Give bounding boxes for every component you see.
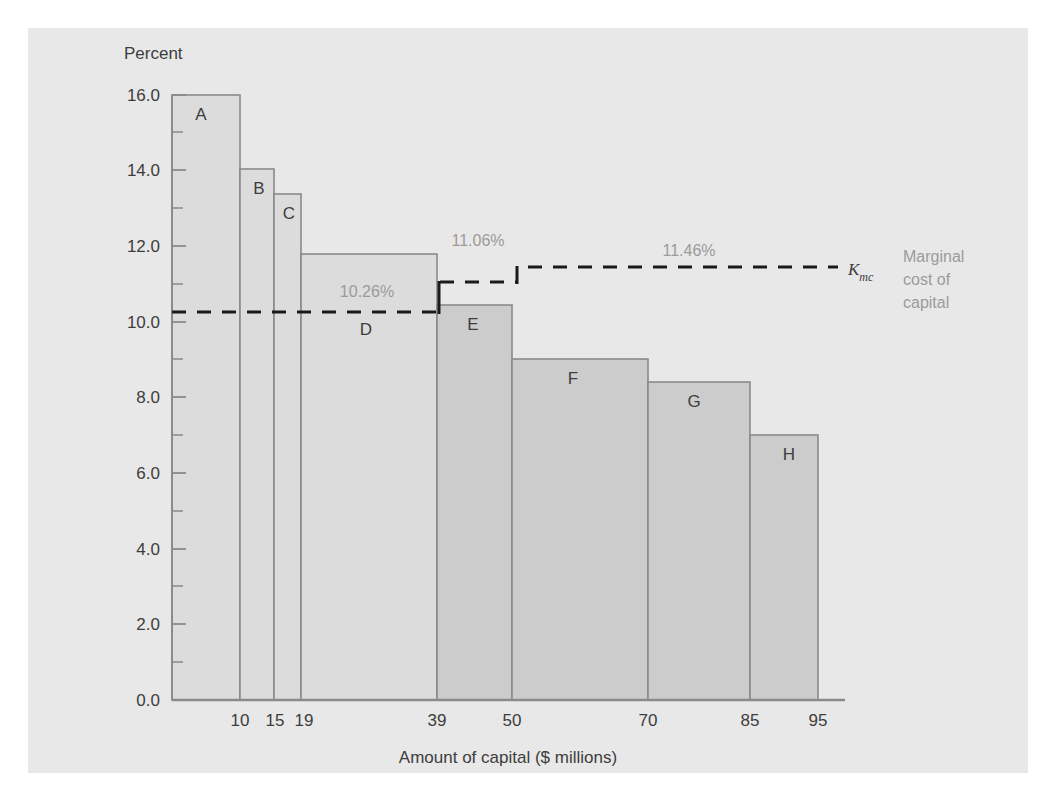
x-tick-label-50: 50 — [503, 711, 522, 730]
y-tick-label-12: 12.0 — [127, 237, 160, 256]
y-tick-label-6: 6.0 — [136, 464, 160, 483]
x-tick-label-10: 10 — [231, 711, 250, 730]
bar-label-f: F — [568, 369, 578, 388]
annotation-11-46: 11.46% — [662, 242, 715, 259]
bars-group — [172, 95, 818, 700]
bar-label-a: A — [195, 105, 207, 124]
x-tick-label-85: 85 — [741, 711, 760, 730]
y-tick-label-14: 14.0 — [127, 161, 160, 180]
bar-h[interactable] — [750, 435, 818, 700]
bar-f[interactable] — [512, 359, 648, 700]
annotation-10-26: 10.26% — [340, 283, 394, 300]
y-tick-label-2: 2.0 — [136, 615, 160, 634]
y-tick-label-16: 16.0 — [127, 86, 160, 105]
y-axis-title: Percent — [124, 44, 183, 63]
y-tick-label-0: 0.0 — [136, 691, 160, 710]
bar-label-b: B — [253, 179, 264, 198]
bar-g[interactable] — [648, 382, 750, 700]
y-tick-label-10: 10.0 — [127, 313, 160, 332]
bar-b[interactable] — [240, 169, 274, 700]
x-tick-label-70: 70 — [639, 711, 658, 730]
kmc-symbol: Kmc — [847, 260, 874, 284]
x-tick-label-95: 95 — [809, 711, 828, 730]
bar-label-g: G — [687, 392, 700, 411]
x-tick-label-15: 15 — [266, 711, 285, 730]
bar-c[interactable] — [274, 194, 301, 700]
y-tick-label-4: 4.0 — [136, 540, 160, 559]
bar-label-e: E — [467, 315, 478, 334]
legend-line-2: cost of — [903, 271, 951, 288]
bar-chart: A B C D E F G H — [0, 0, 1053, 807]
legend-line-3: capital — [903, 294, 949, 311]
annotation-11-06: 11.06% — [451, 232, 504, 249]
bar-label-h: H — [783, 445, 795, 464]
x-axis: 10 15 19 39 50 70 85 95 Amount of capita… — [172, 700, 845, 767]
bar-e[interactable] — [437, 305, 512, 700]
bar-label-c: C — [283, 204, 295, 223]
kmc-symbol-sub: mc — [859, 270, 874, 284]
bar-label-d: D — [360, 320, 372, 339]
figure-canvas: A B C D E F G H — [0, 0, 1053, 807]
x-tick-label-39: 39 — [428, 711, 447, 730]
legend-line-1: Marginal — [903, 248, 964, 265]
mcc-legend: Kmc Marginal cost of capital — [847, 248, 964, 311]
y-tick-label-8: 8.0 — [136, 388, 160, 407]
plot-area: A B C D E F G H — [0, 0, 1053, 807]
x-tick-label-19: 19 — [295, 711, 314, 730]
x-axis-title: Amount of capital ($ millions) — [399, 748, 617, 767]
